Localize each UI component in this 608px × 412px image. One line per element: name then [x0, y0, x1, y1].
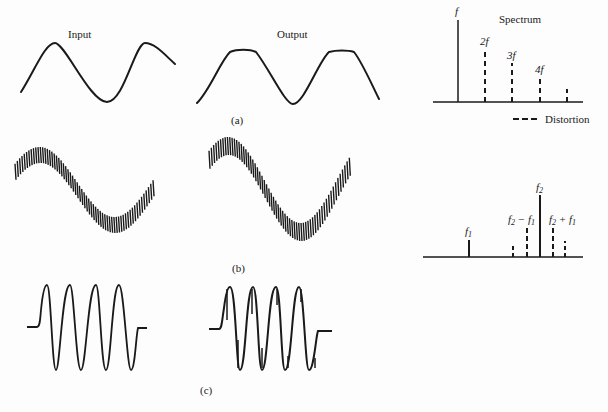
input-label: Input	[68, 28, 91, 40]
label-f2-minus-f1: f2 − f1	[508, 213, 535, 227]
output-label: Output	[277, 28, 308, 40]
label-f2: f2	[536, 181, 543, 195]
spectrum-a	[433, 20, 583, 119]
legend-distortion-label: Distortion	[545, 113, 590, 125]
harmonic-label-4f: 4f	[535, 63, 544, 75]
input-sine-wave	[21, 43, 175, 102]
label-f2-plus-f1: f2 + f1	[549, 213, 576, 227]
output-clipped-wave	[197, 50, 379, 104]
distortion-figure	[0, 0, 608, 412]
caption-a: (a)	[231, 114, 243, 126]
input-burst-wave	[27, 285, 147, 370]
harmonic-label-3f: 3f	[507, 49, 516, 61]
harmonic-label-f: f	[455, 5, 458, 17]
output-noisy-wave	[209, 137, 350, 241]
label-f1: f1	[465, 225, 472, 239]
caption-c: (c)	[200, 384, 212, 396]
input-noisy-wave	[15, 147, 154, 233]
spectrum-title: Spectrum	[499, 13, 541, 25]
harmonic-label-2f: 2f	[480, 35, 489, 47]
caption-b: (b)	[232, 262, 245, 274]
